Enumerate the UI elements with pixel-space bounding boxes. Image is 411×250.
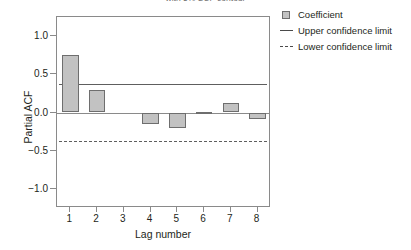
chart-canvas: with 5% SCF contour Partial ACF 1.00.50.… <box>0 0 411 250</box>
x-tick <box>69 207 70 212</box>
x-tick-label: 8 <box>247 213 267 224</box>
bar-lag-5 <box>169 113 186 128</box>
x-tick-label: 4 <box>140 213 160 224</box>
x-tick-label: 2 <box>86 213 106 224</box>
legend-label: Coefficient <box>298 8 343 22</box>
x-tick <box>230 207 231 212</box>
square-swatch-icon <box>280 8 296 22</box>
y-tick-label: −0.5 <box>28 144 48 155</box>
bar-lag-8 <box>249 113 266 120</box>
bar-lag-7 <box>223 103 240 112</box>
y-tick-label: −1.0 <box>28 182 48 193</box>
x-tick <box>96 207 97 212</box>
chart-title-strip: with 5% SCF contour <box>0 0 411 6</box>
x-tick-label: 5 <box>166 213 186 224</box>
upper-confidence-limit-line <box>59 84 267 85</box>
bar-lag-6 <box>196 112 213 114</box>
legend: Coefficient Upper confidence limit Lower… <box>280 8 408 56</box>
legend-item-coefficient: Coefficient <box>280 8 408 22</box>
chart-title: with 5% SCF contour <box>0 0 411 3</box>
plot-area <box>56 16 270 207</box>
legend-item-upper-limit: Upper confidence limit <box>280 24 408 38</box>
lower-confidence-limit-line <box>59 141 267 142</box>
bar-lag-4 <box>142 113 159 124</box>
y-tick-label: 0.0 <box>34 106 48 117</box>
x-tick-label: 7 <box>220 213 240 224</box>
x-tick-label: 3 <box>113 213 133 224</box>
y-tick-label: 1.0 <box>34 30 48 41</box>
x-tick-label: 1 <box>59 213 79 224</box>
x-tick <box>257 207 258 212</box>
zero-line <box>57 113 269 114</box>
bar-lag-2 <box>89 90 106 112</box>
plot-inner <box>57 17 269 206</box>
x-tick <box>150 207 151 212</box>
x-tick <box>203 207 204 212</box>
x-tick-label: 6 <box>193 213 213 224</box>
x-axis-title: Lag number <box>56 228 270 240</box>
x-tick <box>123 207 124 212</box>
solid-line-icon <box>280 24 296 38</box>
dashed-line-icon <box>280 40 296 54</box>
y-tick-label: 0.5 <box>34 68 48 79</box>
legend-label: Upper confidence limit <box>298 24 392 38</box>
bar-lag-1 <box>62 55 79 113</box>
x-tick <box>176 207 177 212</box>
legend-item-lower-limit: Lower confidence limit <box>280 40 408 54</box>
legend-label: Lower confidence limit <box>298 40 392 54</box>
